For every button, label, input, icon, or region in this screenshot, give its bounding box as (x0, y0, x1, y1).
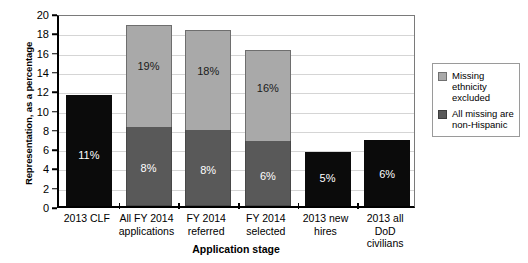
bar-column[interactable]: 19%8% (126, 25, 172, 206)
bar-value-label: 18% (197, 65, 219, 77)
legend-swatch-light-icon (438, 72, 447, 81)
bar-segment-black[interactable]: 6% (364, 140, 410, 206)
legend-item-all-missing-non-hispanic: All missing are non-Hispanic (438, 108, 514, 130)
y-axis-tick-label: 10 (37, 106, 49, 117)
x-axis-tick-mark (119, 203, 121, 209)
bar-column[interactable]: 18%8% (185, 30, 231, 206)
bar-column[interactable]: 6% (364, 140, 410, 206)
y-axis-tick-label: 14 (37, 67, 49, 78)
x-axis-label-line: hires (296, 225, 356, 238)
bar-segment-light[interactable]: 18% (185, 30, 231, 129)
x-axis-tick-mark (238, 203, 240, 209)
bar-value-label: 8% (200, 164, 216, 176)
bar-segment-dark[interactable]: 8% (126, 127, 172, 206)
legend-swatch-dark-icon (438, 110, 447, 119)
x-axis-category-labels: 2013 CLFAll FY 2014applicationsFY 2014re… (57, 212, 415, 246)
bar-value-label: 5% (320, 172, 336, 184)
y-axis-tick-label: 18 (37, 29, 49, 40)
y-axis-tick-label: 16 (37, 48, 49, 59)
y-axis-tick-label: 6 (43, 145, 49, 156)
plot-area: 11%19%8%18%8%16%6%5%6% (57, 15, 415, 208)
x-axis-label-line: 2013 all (355, 212, 415, 225)
bar-value-label: 16% (257, 82, 279, 94)
x-axis-category-label: All FY 2014applications (117, 212, 177, 237)
bar-value-label: 19% (137, 60, 159, 72)
x-axis-label-line: FY 2014 (236, 212, 296, 225)
x-axis-label-line: 2013 CLF (57, 212, 117, 225)
y-axis-tick-label: 4 (43, 164, 49, 175)
x-axis-title: Application stage (57, 243, 415, 255)
x-axis-label-line: selected (236, 225, 296, 238)
y-axis-tick-label: 8 (43, 125, 49, 136)
chart-legend: Missing ethnicity excluded All missing a… (432, 63, 520, 137)
x-axis-tick-mark (357, 203, 359, 209)
bar-segment-dark[interactable]: 6% (245, 141, 291, 206)
bar-segment-black[interactable]: 5% (305, 152, 351, 206)
x-axis-category-label: 2013 CLF (57, 212, 117, 225)
bar-column[interactable]: 16%6% (245, 50, 291, 206)
bar-column[interactable]: 11% (66, 95, 112, 206)
y-axis-tick-label: 12 (37, 87, 49, 98)
legend-label: Missing ethnicity excluded (452, 70, 514, 103)
bar-value-label: 8% (141, 162, 157, 174)
x-axis-label-line: 2013 new (296, 212, 356, 225)
y-axis-tick-label: 2 (43, 183, 49, 194)
x-axis-category-label: FY 2014selected (236, 212, 296, 237)
x-axis-category-label: FY 2014referred (176, 212, 236, 237)
x-axis-label-line: FY 2014 (176, 212, 236, 225)
bar-segment-black[interactable]: 11% (66, 95, 112, 206)
y-axis-tick-label: 20 (37, 10, 49, 21)
bar-value-label: 11% (78, 149, 99, 161)
bar-segment-light[interactable]: 16% (245, 50, 291, 142)
x-axis-tick-mark (178, 203, 180, 209)
x-axis-tick-mark (298, 203, 300, 209)
legend-label: All missing are non-Hispanic (452, 108, 514, 130)
bar-segment-light[interactable]: 19% (126, 25, 172, 127)
y-axis-ticks: 02468101214161820 (0, 15, 57, 208)
x-axis-category-label: 2013 newhires (296, 212, 356, 237)
x-axis-label-line: All FY 2014 (117, 212, 177, 225)
y-axis-tick-label: 0 (43, 203, 49, 214)
bar-value-label: 6% (260, 170, 276, 182)
bar-segment-dark[interactable]: 8% (185, 130, 231, 206)
bar-value-label: 6% (379, 168, 395, 180)
legend-item-missing-ethnicity-excluded: Missing ethnicity excluded (438, 70, 514, 103)
x-axis-label-line: referred (176, 225, 236, 238)
x-axis-label-line: applications (117, 225, 177, 238)
bar-column[interactable]: 5% (305, 152, 351, 206)
bar-chart: Representation, as a percentage 02468101… (0, 0, 528, 263)
bar-series-group: 11%19%8%18%8%16%6%5%6% (59, 16, 414, 206)
